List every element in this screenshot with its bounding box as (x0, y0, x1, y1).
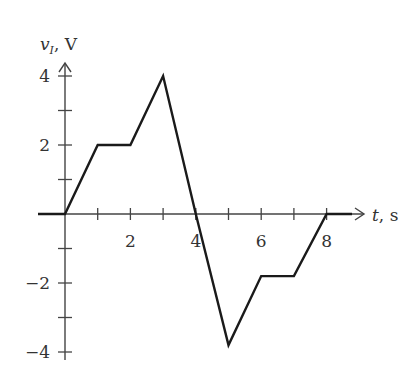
y-tick-label: 2 (39, 135, 50, 155)
x-axis-label: t, s (372, 205, 398, 225)
voltage-waveform-chart: 246842−2−4 vI, V t, s (0, 0, 418, 383)
x-tick-label: 2 (125, 231, 136, 251)
axes (38, 63, 364, 360)
x-tick-label: 6 (256, 231, 267, 251)
x-tick-label: 8 (321, 231, 332, 251)
y-tick-label: −2 (25, 273, 50, 293)
y-tick-label: −4 (25, 342, 50, 362)
waveform-line (38, 76, 352, 345)
y-axis-label: vI, V (40, 34, 78, 57)
y-tick-label: 4 (39, 66, 50, 86)
